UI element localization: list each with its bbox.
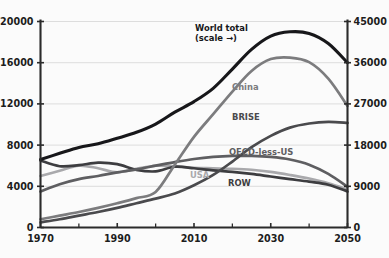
series-annotations: World total(scale →)ChinaBRISEOECD-less-… [190, 23, 293, 188]
x-tick-label: 1990 [104, 233, 131, 244]
y-tick-label-left: 0 [27, 222, 34, 233]
series-label-china: China [232, 82, 259, 92]
line-chart: 0400080001200016000200000900018000270003… [0, 0, 389, 258]
y-tick-label-right: 0 [354, 222, 361, 233]
y-tick-label-left: 20000 [0, 16, 34, 27]
y-tick-label-left: 16000 [0, 57, 34, 68]
axis-tick-labels: 0400080001200016000200000900018000270003… [0, 16, 387, 244]
y-tick-label-left: 4000 [7, 181, 34, 192]
series-label-world-total: World total [195, 23, 248, 33]
y-tick-label-left: 12000 [0, 98, 34, 109]
series-line-china [41, 57, 348, 219]
series-label-usa: USA [190, 170, 210, 180]
series-label-row: ROW [228, 178, 251, 188]
series-label-oecd-less-us: OECD-less-US [229, 147, 293, 157]
y-tick-label-right: 27000 [354, 98, 388, 109]
chart-container: 0400080001200016000200000900018000270003… [0, 0, 389, 258]
series-sublabel-world-total: (scale →) [195, 33, 237, 43]
series-line-world-total [41, 32, 348, 160]
y-tick-label-right: 36000 [354, 57, 388, 68]
y-tick-label-right: 18000 [354, 140, 388, 151]
y-tick-label-left: 8000 [7, 140, 34, 151]
series-paths [41, 32, 348, 223]
y-tick-label-right: 9000 [354, 181, 381, 192]
x-tick-label: 2050 [334, 233, 361, 244]
x-tick-label: 2010 [181, 233, 208, 244]
series-label-brise: BRISE [232, 112, 260, 122]
x-tick-label: 1970 [27, 233, 54, 244]
y-tick-label-right: 45000 [354, 16, 388, 27]
x-tick-label: 2030 [257, 233, 284, 244]
